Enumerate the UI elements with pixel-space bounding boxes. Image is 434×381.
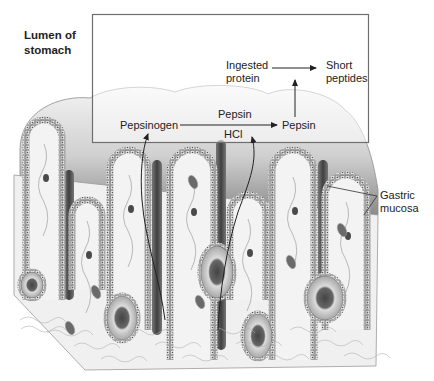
gastric-pit xyxy=(152,160,162,335)
gastric-mucosa-line-2: mucosa xyxy=(380,202,419,215)
lumen-label-line-1: Lumen of xyxy=(24,28,76,43)
diagram-canvas: Lumen of stomach Ingested protein Short … xyxy=(0,0,434,381)
hcl-label: HCl xyxy=(224,128,242,141)
pepsin-product-label: Pepsin xyxy=(282,119,316,132)
short-peptides-label: Short peptides xyxy=(326,59,368,85)
gastric-mucosa-label: Gastric mucosa xyxy=(380,189,419,215)
short-peptides-line-1: Short xyxy=(326,59,368,72)
gland-section xyxy=(307,276,343,320)
ingested-protein-line-2: protein xyxy=(226,72,268,85)
ingested-protein-line-1: Ingested xyxy=(226,59,268,72)
nucleus xyxy=(128,205,134,213)
gland-section xyxy=(21,272,43,298)
short-peptides-line-2: peptides xyxy=(326,72,368,85)
ingested-protein-label: Ingested protein xyxy=(226,59,268,85)
gland-section xyxy=(244,314,272,358)
gland-section xyxy=(201,246,233,298)
pepsin-catalyst-label: Pepsin xyxy=(218,108,252,121)
lumen-of-stomach-label: Lumen of stomach xyxy=(24,28,76,58)
pepsinogen-label: Pepsinogen xyxy=(120,119,178,132)
nucleus xyxy=(292,207,298,215)
nucleus xyxy=(247,249,253,257)
gland-section xyxy=(107,296,137,340)
nucleus xyxy=(191,208,197,216)
nucleus xyxy=(43,174,49,182)
villus-fold xyxy=(230,195,266,300)
gastric-mucosa-line-1: Gastric xyxy=(380,189,419,202)
nucleus xyxy=(86,251,92,259)
lumen-label-line-2: stomach xyxy=(24,43,76,58)
